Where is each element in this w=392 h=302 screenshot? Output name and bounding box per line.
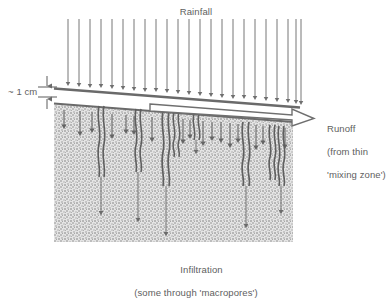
- depth-label: ~ 1 cm: [8, 86, 37, 98]
- runoff-label-line2: (from thin: [327, 146, 368, 157]
- infiltration-label: Infiltration (some through 'macropores'): [0, 252, 392, 302]
- runoff-label-line1: Runoff: [327, 123, 355, 134]
- soil-body: [54, 104, 300, 242]
- infiltration-label-line2: (some through 'macropores'): [0, 287, 392, 299]
- runoff-label: Runoff (from thin 'mixing zone'): [316, 111, 386, 192]
- soil-fill: [54, 104, 300, 242]
- infiltration-label-line1: Infiltration: [180, 264, 222, 275]
- runoff-label-line3: 'mixing zone'): [327, 169, 386, 180]
- rainfall-arrow-group: [68, 19, 301, 103]
- rainfall-label: Rainfall: [0, 6, 392, 18]
